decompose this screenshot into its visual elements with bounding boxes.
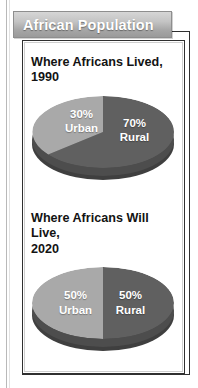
chart-block-1990: Where Africans Lived, 1990 30% Urban 70%… [23, 55, 184, 186]
pie-label-rural-1990: 70% Rural [108, 116, 162, 145]
frame-connector-right [189, 31, 190, 375]
page-edge-rule [6, 0, 7, 388]
pie-chart-2020: 50% Urban 50% Rural [28, 261, 180, 357]
chart-heading-1990: Where Africans Lived, 1990 [23, 55, 184, 86]
figure-title-text: African Population [14, 17, 154, 33]
figure-page: African Population Where Africans Lived,… [0, 0, 198, 388]
figure-frame: Where Africans Lived, 1990 30% Urban 70%… [22, 40, 185, 374]
pie-label-rural-2020: 50% Rural [104, 288, 158, 317]
pie-chart-1990: 30% Urban 70% Rural [28, 90, 180, 186]
figure-title-tab: African Population [13, 11, 172, 38]
pie-label-urban-1990: 30% Urban [54, 107, 110, 136]
page-edge-rule-secondary [9, 0, 10, 388]
pie-label-urban-2020: 50% Urban [48, 288, 104, 317]
chart-heading-2020: Where Africans Will Live, 2020 [23, 211, 184, 257]
frame-connector-top [172, 31, 190, 32]
chart-block-2020: Where Africans Will Live, 2020 50% Urban… [23, 211, 184, 357]
frame-connector-bottom [22, 374, 190, 375]
